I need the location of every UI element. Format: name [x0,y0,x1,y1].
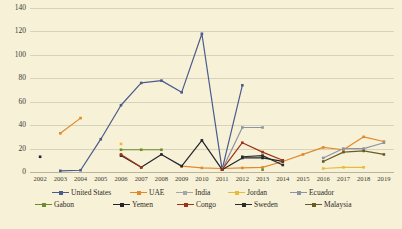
y-axis-tick-label: 80 [0,74,26,82]
legend-item-malaysia[interactable]: Malaysia [305,200,367,209]
data-point-marker [241,141,244,144]
x-axis-tick-label: 2002 [34,176,47,183]
series-line [121,140,283,169]
legend-marker-icon [130,189,147,196]
legend-marker-icon [176,189,193,196]
x-axis-tick-label: 2005 [94,176,107,183]
legend-label: India [195,188,212,197]
legend-label: UAE [149,188,166,197]
legend-item-jordan[interactable]: Jordan [228,188,290,197]
data-point-marker [322,157,325,160]
data-point-marker [322,167,325,170]
x-axis-tick-label: 2006 [114,176,127,183]
data-point-marker [120,104,123,107]
data-point-marker [201,167,204,170]
x-axis-tick-label: 2017 [337,176,350,183]
series-line [121,154,141,167]
x-axis-tick-label: 2014 [276,176,289,183]
legend-item-sweden[interactable]: Sweden [235,200,305,209]
data-point-marker [140,82,143,85]
x-axis-tick-label: 2007 [135,176,148,183]
y-axis-tick-label: 140 [0,4,26,12]
x-axis-tick-label: 2010 [195,176,208,183]
data-point-marker [261,126,264,129]
legend-marker-icon [113,201,130,208]
legend-item-ecuador[interactable]: Ecuador [290,188,350,197]
data-point-marker [180,91,183,94]
legend-label: Ecuador [309,188,336,197]
y-axis-tick-label: 40 [0,121,26,129]
data-point-marker [140,148,143,151]
series-ecuador [221,126,385,171]
x-axis-tick-label: 2015 [296,176,309,183]
data-point-marker [281,164,284,167]
series-line [323,151,384,162]
data-point-marker [241,155,244,158]
legend-row: United StatesUAEIndiaJordanEcuador [52,188,350,197]
data-point-marker [221,168,224,171]
data-point-marker [261,166,264,169]
data-point-marker [59,132,62,135]
series-united-states [59,32,244,172]
series-line [323,143,384,158]
y-axis-tick-label: 60 [0,98,26,106]
legend-item-congo[interactable]: Congo [177,200,235,209]
x-axis-tick-label: 2009 [175,176,188,183]
legend-label: Malaysia [324,200,354,209]
legend-marker-icon [52,189,69,196]
series-layer [30,8,394,172]
series-line [60,118,80,133]
x-axis-tick-label: 2012 [236,176,249,183]
data-point-marker [180,165,183,168]
legend-item-gabon[interactable]: Gabon [35,200,113,209]
legend-label: Yemen [132,200,155,209]
x-axis-line [30,172,394,173]
line-chart: 020406080100120140 200220032004200520062… [0,0,402,229]
data-point-marker [362,136,365,139]
x-axis-tick-label: 2003 [54,176,67,183]
data-point-marker [261,151,264,154]
data-point-marker [322,146,325,149]
data-point-marker [261,157,264,160]
data-point-marker [362,150,365,153]
plot-area [30,8,394,172]
data-point-marker [362,147,365,150]
data-point-marker [99,138,102,141]
data-point-marker [241,126,244,129]
chart-legend: United StatesUAEIndiaJordanEcuadorGabonY… [0,188,402,209]
data-point-marker [59,170,62,173]
data-point-marker [120,153,123,156]
x-axis-tick-label: 2004 [74,176,87,183]
data-point-marker [302,153,305,156]
data-point-marker [281,159,284,162]
legend-label: Gabon [54,200,76,209]
legend-item-india[interactable]: India [176,188,228,197]
y-axis-tick-label: 120 [0,27,26,35]
legend-item-uae[interactable]: UAE [130,188,176,197]
y-axis-tick-label: 20 [0,145,26,153]
data-point-marker [160,148,163,151]
x-axis-tick-label: 2016 [317,176,330,183]
legend-item-united-states[interactable]: United States [52,188,130,197]
legend-label: United States [71,188,113,197]
legend-item-yemen[interactable]: Yemen [113,200,177,209]
data-point-marker [160,79,163,82]
legend-label: Jordan [247,188,269,197]
data-point-marker [120,148,123,151]
data-point-marker [383,141,386,144]
data-point-marker [140,166,143,169]
legend-marker-icon [35,201,52,208]
data-point-marker [383,153,386,156]
legend-marker-icon [290,189,307,196]
data-point-marker [241,167,244,170]
series-yemen [39,139,284,171]
data-point-marker [342,147,345,150]
series-malaysia [322,150,385,163]
data-point-marker [39,155,42,158]
data-point-marker [362,166,365,169]
data-point-marker [322,160,325,163]
x-axis-tick-label: 2019 [377,176,390,183]
data-point-marker [201,32,204,35]
legend-marker-icon [177,201,194,208]
data-point-marker [79,169,82,172]
